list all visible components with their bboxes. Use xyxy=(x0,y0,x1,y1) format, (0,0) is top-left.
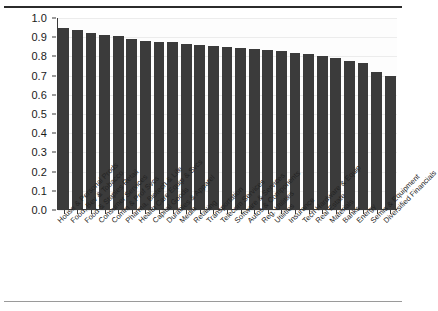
bar xyxy=(126,39,137,210)
bar xyxy=(262,50,273,210)
bar xyxy=(317,56,328,210)
y-axis-tickmark xyxy=(52,114,56,115)
y-axis-tick-label: 1.0 xyxy=(31,12,47,24)
y-axis-tickmark xyxy=(52,18,56,19)
page-top-rule xyxy=(4,6,402,8)
bar xyxy=(371,72,382,210)
x-axis-tickmark xyxy=(254,210,255,214)
bar xyxy=(276,51,287,210)
y-axis-tick-label: 0.1 xyxy=(31,185,47,197)
y-axis-tick-label: 0.7 xyxy=(31,70,47,82)
bar xyxy=(86,33,97,210)
bar xyxy=(290,53,301,210)
bar xyxy=(194,45,205,210)
x-axis-tickmark xyxy=(281,210,282,214)
x-axis-tickmark xyxy=(173,210,174,214)
y-axis-tickmark xyxy=(52,210,56,211)
y-axis-tick-label: 0.4 xyxy=(31,127,47,139)
bar xyxy=(140,41,151,210)
y-axis-tickmark xyxy=(52,190,56,191)
bar xyxy=(72,30,83,210)
y-axis-tick-label: 0.5 xyxy=(31,108,47,120)
y-axis-tick-label: 0.0 xyxy=(31,204,47,216)
bar xyxy=(235,48,246,210)
x-axis-tickmark xyxy=(336,210,337,214)
y-axis-tickmark xyxy=(52,171,56,172)
x-axis-tickmark xyxy=(349,210,350,214)
y-axis-tick-label: 0.2 xyxy=(31,166,47,178)
y-axis-tickmark xyxy=(52,152,56,153)
bar xyxy=(344,61,355,210)
bar xyxy=(181,44,192,210)
bar xyxy=(208,46,219,210)
bar xyxy=(330,58,341,210)
bar xyxy=(58,28,69,210)
x-axis-tickmark xyxy=(268,210,269,214)
x-axis-tickmark xyxy=(159,210,160,214)
x-axis-tickmark xyxy=(200,210,201,214)
x-axis-tickmark xyxy=(363,210,364,214)
bar xyxy=(385,76,396,210)
y-axis-tick-label: 0.3 xyxy=(31,146,47,158)
x-axis-tickmark xyxy=(118,210,119,214)
x-axis-tickmark xyxy=(227,210,228,214)
x-axis-tickmark xyxy=(322,210,323,214)
x-axis-tickmark xyxy=(77,210,78,214)
x-axis-tickmark xyxy=(213,210,214,214)
x-axis-tickmark xyxy=(64,210,65,214)
y-axis-tickmark xyxy=(52,37,56,38)
x-axis-tickmark xyxy=(132,210,133,214)
x-axis-tickmarks xyxy=(57,210,397,215)
x-axis-tickmark xyxy=(309,210,310,214)
x-axis-tickmark xyxy=(295,210,296,214)
x-axis-tickmark xyxy=(377,210,378,214)
y-axis: 1.00.90.80.70.60.50.40.30.20.10.0 xyxy=(0,18,55,210)
y-axis-tickmark xyxy=(52,56,56,57)
bar xyxy=(303,54,314,210)
y-axis-tickmark xyxy=(52,133,56,134)
bar xyxy=(222,47,233,210)
y-axis-tick-label: 0.6 xyxy=(31,89,47,101)
bar xyxy=(99,35,110,210)
x-axis-tickmark xyxy=(145,210,146,214)
x-axis-tickmark xyxy=(91,210,92,214)
y-axis-tick-label: 0.8 xyxy=(31,50,47,62)
y-axis-tick-label: 0.9 xyxy=(31,31,47,43)
bar xyxy=(358,63,369,210)
bar-series xyxy=(57,18,397,210)
bar xyxy=(167,42,178,210)
bar xyxy=(249,49,260,210)
bar xyxy=(113,36,124,210)
x-axis-tickmark xyxy=(241,210,242,214)
x-axis-tickmark xyxy=(390,210,391,214)
y-axis-tickmark xyxy=(52,75,56,76)
y-axis-tickmark xyxy=(52,94,56,95)
x-axis-tickmark xyxy=(105,210,106,214)
x-axis-tickmark xyxy=(186,210,187,214)
bar xyxy=(154,42,165,210)
page-bottom-rule xyxy=(4,301,402,302)
